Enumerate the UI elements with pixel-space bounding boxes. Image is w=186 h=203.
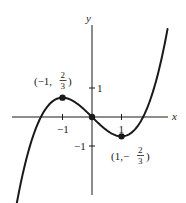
- cubic-function-graph: x y −1 1 1 −1 (−1, 2 3 ) (1,− 2 3 ): [0, 0, 186, 203]
- max-label-denominator: 3: [61, 81, 66, 91]
- max-label-numerator: 2: [61, 70, 66, 80]
- local-minimum-label: (1,− 2 3 ): [111, 145, 150, 166]
- min-label-suffix: ): [146, 150, 150, 163]
- min-label-denominator: 3: [138, 156, 143, 166]
- local-maximum-point: [59, 94, 65, 100]
- max-label-suffix: ): [68, 75, 72, 88]
- max-label-prefix: (−1,: [34, 75, 52, 88]
- tick-label-y-neg1: −1: [74, 140, 86, 152]
- x-axis-label: x: [171, 110, 177, 122]
- min-label-numerator: 2: [138, 145, 143, 155]
- y-axis-label: y: [85, 12, 91, 24]
- tick-label-y-pos1: 1: [97, 82, 103, 94]
- local-minimum-point: [118, 133, 124, 139]
- min-label-prefix: (1,−: [111, 150, 129, 163]
- origin-point: [89, 114, 95, 120]
- local-maximum-label: (−1, 2 3 ): [34, 70, 72, 91]
- tick-label-x-neg1: −1: [57, 123, 69, 135]
